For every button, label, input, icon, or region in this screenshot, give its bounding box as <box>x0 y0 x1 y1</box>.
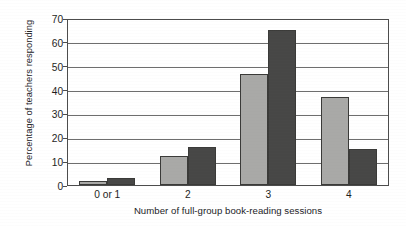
y-axis-tick-label: 10 <box>23 157 63 168</box>
x-axis-tick-label: 0 or 1 <box>94 189 120 200</box>
y-axis-tick-label: 60 <box>23 37 63 48</box>
y-axis-tick-label: 40 <box>23 85 63 96</box>
x-axis-tick-label: 2 <box>185 189 191 200</box>
gridline <box>68 43 388 44</box>
y-axis-tick-label: 70 <box>23 14 63 25</box>
y-axis-tick-label: 50 <box>23 61 63 72</box>
y-axis-tick-label: 20 <box>23 133 63 144</box>
gridline <box>68 139 388 140</box>
plot-area <box>67 19 389 186</box>
gridline <box>68 67 388 68</box>
y-axis-tick-label: 30 <box>23 109 63 120</box>
gridline <box>68 115 388 116</box>
x-axis-tick-group: 0 or 1234 <box>67 186 389 204</box>
y-axis-tick-label: 0 <box>23 181 63 192</box>
x-axis-tick-label: 4 <box>346 189 352 200</box>
gridline <box>68 163 388 164</box>
gridline <box>68 91 388 92</box>
bar-chart: Percentage of teachers responding 010203… <box>0 0 406 226</box>
x-axis-tick-label: 3 <box>265 189 271 200</box>
y-axis-tick-group: 010203040506070 <box>19 19 63 186</box>
x-axis-title: Number of full-group book-reading sessio… <box>67 205 389 216</box>
